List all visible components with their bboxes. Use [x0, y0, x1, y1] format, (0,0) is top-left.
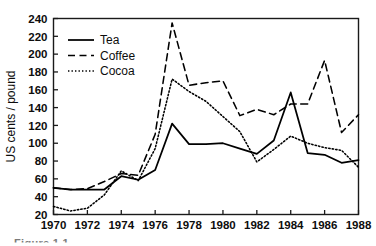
legend-label-tea: Tea: [100, 33, 120, 47]
y-axis-tick-label: 180: [28, 66, 47, 78]
x-axis-tick-label: 1986: [312, 219, 338, 231]
y-axis-tick-label: 140: [28, 102, 47, 114]
x-axis-tick-label: 1970: [41, 219, 67, 231]
x-axis-tick-label: 1980: [210, 219, 236, 231]
y-axis-title: US cents / pound: [4, 70, 18, 162]
x-axis-tick-label: 1974: [108, 219, 134, 231]
y-axis-tick-label: 40: [35, 191, 48, 203]
y-axis-tick-label: 60: [35, 173, 48, 185]
x-axis-tick-label: 1982: [244, 219, 270, 231]
figure-container: 2040608010012014016018020022024019701972…: [0, 0, 376, 246]
y-axis-tick-label: 200: [28, 48, 47, 60]
legend-label-coffee: Coffee: [100, 49, 135, 63]
legend-label-cocoa: Cocoa: [100, 64, 135, 78]
y-axis-tick-label: 160: [28, 84, 47, 96]
y-axis-tick-label: 220: [28, 31, 47, 43]
y-axis-tick-label: 120: [28, 120, 47, 132]
x-axis-tick-label: 1988: [346, 219, 372, 231]
x-axis-tick-label: 1972: [75, 219, 101, 231]
x-axis-tick-label: 1984: [278, 219, 304, 231]
series-line-tea: [54, 92, 359, 189]
x-axis-tick-label: 1978: [176, 219, 202, 231]
series-line-cocoa: [54, 79, 359, 211]
line-chart: 2040608010012014016018020022024019701972…: [0, 0, 376, 246]
y-axis-tick-label: 80: [35, 155, 48, 167]
y-axis-tick-label: 240: [28, 13, 47, 25]
x-axis-tick-label: 1976: [142, 219, 168, 231]
y-axis-tick-label: 100: [28, 137, 47, 149]
